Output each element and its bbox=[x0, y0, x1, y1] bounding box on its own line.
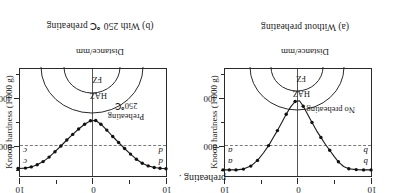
figure-root: (a) Without preheating Distance/mm 10 0 … bbox=[0, 0, 405, 184]
panel-a-x-axis-title: Distance/mm bbox=[205, 47, 405, 57]
panel-a-section-label-left: b bbox=[364, 146, 369, 156]
chart-panel-a: (a) Without preheating Distance/mm 10 0 … bbox=[205, 0, 405, 184]
panel-a-endlabel-left: b bbox=[364, 157, 369, 167]
panel-b-y-axis-title: Knoop hardness (1 000 g) bbox=[2, 68, 16, 177]
panel-b-section-label-right: c bbox=[23, 146, 27, 156]
panel-b-caption: (b) With 250 ℃ preheating bbox=[0, 21, 200, 32]
panel-b-y-axis-title-text: Knoop hardness (1 000 g) bbox=[4, 76, 14, 170]
chart-panel-b: (b) With 250 ℃ preheating Distance/mm 10… bbox=[0, 0, 200, 184]
panel-b-endlabel-left: d bbox=[159, 157, 164, 167]
panel-b-section-label-left: d bbox=[159, 146, 164, 156]
panel-b-preheating-label-line2: 250℃ bbox=[100, 101, 152, 110]
panel-a-haz-label: HAZ bbox=[293, 89, 310, 98]
panel-a-plot-area: No preheating HAZ FZ b a b a bbox=[224, 68, 372, 177]
panel-b-haz-label: HAZ bbox=[90, 91, 107, 100]
panel-a-endlabel-right: a bbox=[228, 157, 233, 167]
figure-trailing-caption: preheating . bbox=[0, 173, 405, 184]
panel-b-plot-area: Preheating 250℃ HAZ FZ d c d c bbox=[19, 68, 167, 177]
panel-a-y-axis-title-text: Knoop hardness (1 000 g) bbox=[209, 76, 219, 170]
panel-a-section-label-right: a bbox=[228, 146, 233, 156]
panel-a-no-preheating-label: No preheating bbox=[307, 105, 355, 114]
panel-b-fz-label: FZ bbox=[92, 75, 102, 84]
panel-b-endlabel-right: c bbox=[23, 157, 27, 167]
panel-a-caption: (a) Without preheating bbox=[205, 22, 405, 32]
panel-b-preheating-label-line1: Preheating bbox=[100, 112, 152, 121]
panel-b-x-axis-title: Distance/mm bbox=[0, 47, 200, 57]
panel-a-y-axis-title: Knoop hardness (1 000 g) bbox=[207, 68, 221, 177]
panel-a-fz-label: FZ bbox=[296, 74, 306, 83]
